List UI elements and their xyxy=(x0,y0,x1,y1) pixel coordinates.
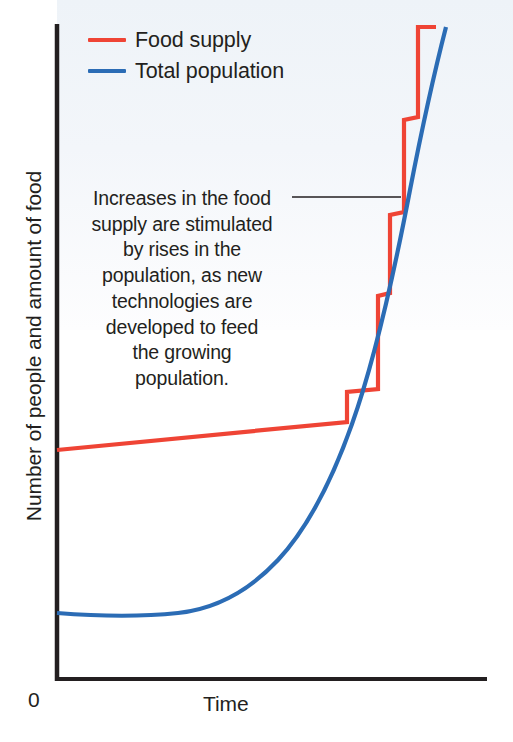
annotation-line-4: population, as new xyxy=(62,263,302,289)
annotation-line-6: developed to feed xyxy=(62,315,302,341)
axis-origin-label: 0 xyxy=(28,688,40,712)
annotation-line-8: population. xyxy=(62,366,302,392)
legend-item-total-population[interactable]: Total population xyxy=(88,57,284,84)
legend-label-total-population: Total population xyxy=(135,59,284,83)
annotation-line-3: by rises in the xyxy=(62,237,302,263)
legend-item-food-supply[interactable]: Food supply xyxy=(88,26,284,53)
chart-legend: Food supply Total population xyxy=(88,26,284,84)
annotation-line-5: technologies are xyxy=(62,289,302,315)
annotation-line-1: Increases in the food xyxy=(62,186,302,212)
chart-annotation-text: Increases in the food supply are stimula… xyxy=(62,186,302,392)
x-axis-label: Time xyxy=(203,692,249,716)
y-axis-label: Number of people and amount of food xyxy=(22,136,46,556)
legend-swatch-food-supply xyxy=(88,38,126,42)
chart-figure: Food supply Total population Increases i… xyxy=(0,0,513,742)
annotation-line-7: the growing xyxy=(62,340,302,366)
legend-label-food-supply: Food supply xyxy=(135,28,251,52)
annotation-line-2: supply are stimulated xyxy=(62,212,302,238)
legend-swatch-total-population xyxy=(88,69,126,73)
